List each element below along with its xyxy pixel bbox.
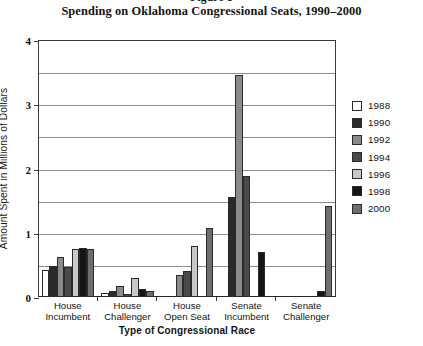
y-tick-mark xyxy=(34,170,39,171)
bar-1990-house-incumbent[interactable] xyxy=(49,266,57,297)
x-category-line: Challenger xyxy=(276,311,336,322)
bar-1998-senate-challenger[interactable] xyxy=(317,291,325,297)
bar-1998-senate-incumbent[interactable] xyxy=(258,252,266,297)
figure-title: Spending on Oklahoma Congressional Seats… xyxy=(0,4,423,19)
gridline xyxy=(39,170,335,171)
y-tick-label-2: 2 xyxy=(26,164,32,176)
bar-1992-house-open-seat[interactable] xyxy=(176,275,184,297)
figure-container: Figure 1 Spending on Oklahoma Congressio… xyxy=(0,0,423,346)
bar-1992-house-incumbent[interactable] xyxy=(57,257,65,297)
legend-item-1988[interactable]: 1988 xyxy=(352,100,390,111)
gridline xyxy=(39,234,335,235)
legend-swatch-1994 xyxy=(352,152,362,162)
legend-swatch-1990 xyxy=(352,118,362,128)
bar-1992-senate-incumbent[interactable] xyxy=(235,75,243,297)
legend-item-1992[interactable]: 1992 xyxy=(352,134,390,145)
bar-2000-house-open-seat[interactable] xyxy=(206,228,214,297)
legend-swatch-1998 xyxy=(352,186,362,196)
bar-1996-house-open-seat[interactable] xyxy=(191,246,199,297)
x-category-senate-incumbent: SenateIncumbent xyxy=(217,300,277,323)
y-tick-label-4: 4 xyxy=(26,35,32,47)
bar-1998-house-challenger[interactable] xyxy=(139,289,147,297)
legend-label-1996: 1996 xyxy=(368,169,390,180)
bar-1994-house-challenger[interactable] xyxy=(124,294,132,297)
bar-1996-house-incumbent[interactable] xyxy=(72,249,80,297)
y-tick-mark xyxy=(34,41,39,42)
legend-label-1992: 1992 xyxy=(368,134,390,145)
x-category-line: House xyxy=(173,300,201,311)
legend-label-1990: 1990 xyxy=(368,117,390,128)
x-category-line: Senate xyxy=(291,300,321,311)
bar-1998-house-incumbent[interactable] xyxy=(79,248,87,297)
bar-1990-senate-incumbent[interactable] xyxy=(228,197,236,297)
x-axis-title: Type of Congressional Race xyxy=(38,325,336,336)
gridline xyxy=(39,137,335,138)
gridline xyxy=(39,73,335,74)
legend-item-1996[interactable]: 1996 xyxy=(352,169,390,180)
bar-2000-house-challenger[interactable] xyxy=(146,291,154,297)
x-category-house-challenger: HouseChallenger xyxy=(98,300,158,323)
legend-label-1998: 1998 xyxy=(368,186,390,197)
legend-item-1998[interactable]: 1998 xyxy=(352,186,390,197)
gridline xyxy=(39,105,335,106)
bar-2000-senate-challenger[interactable] xyxy=(325,206,333,297)
y-tick-label-0: 0 xyxy=(26,292,32,304)
legend-label-1994: 1994 xyxy=(368,152,390,163)
x-category-line: Incumbent xyxy=(38,311,98,322)
bar-1996-house-challenger[interactable] xyxy=(131,278,139,297)
x-category-line: Incumbent xyxy=(217,311,277,322)
legend-label-1988: 1988 xyxy=(368,100,390,111)
legend-item-1994[interactable]: 1994 xyxy=(352,152,390,163)
bar-1994-house-open-seat[interactable] xyxy=(183,271,191,297)
y-tick-mark xyxy=(34,234,39,235)
x-category-house-open-seat: HouseOpen Seat xyxy=(157,300,217,323)
legend-swatch-1992 xyxy=(352,135,362,145)
x-category-senate-challenger: SenateChallenger xyxy=(276,300,336,323)
legend-swatch-1988 xyxy=(352,101,362,111)
y-tick-mark xyxy=(34,105,39,106)
bar-1988-house-challenger[interactable] xyxy=(101,293,109,297)
figure-label: Figure 1 xyxy=(0,0,423,3)
legend-swatch-2000 xyxy=(352,204,362,214)
y-tick-mark xyxy=(34,298,39,299)
x-category-line: House xyxy=(54,300,82,311)
bar-2000-house-incumbent[interactable] xyxy=(87,249,95,297)
bar-1988-house-incumbent[interactable] xyxy=(42,270,50,297)
y-axis-title-text: Amount Spent in Millions of Dollars xyxy=(0,88,10,249)
x-category-line: House xyxy=(114,300,142,311)
x-category-line: Senate xyxy=(231,300,261,311)
legend-label-2000: 2000 xyxy=(368,203,390,214)
x-category-line: Open Seat xyxy=(157,311,217,322)
y-tick-label-3: 3 xyxy=(26,99,32,111)
legend-swatch-1996 xyxy=(352,169,362,179)
x-category-house-incumbent: HouseIncumbent xyxy=(38,300,98,323)
x-category-line: Challenger xyxy=(98,311,158,322)
bar-1992-house-challenger[interactable] xyxy=(116,286,124,297)
x-axis-category-labels: HouseIncumbentHouseChallengerHouseOpen S… xyxy=(38,300,336,323)
bar-1990-house-challenger[interactable] xyxy=(109,291,117,297)
y-axis-title: Amount Spent in Millions of Dollars xyxy=(0,40,12,297)
legend-item-1990[interactable]: 1990 xyxy=(352,117,390,128)
legend: 1988199019921994199619982000 xyxy=(352,100,390,214)
bar-1994-senate-incumbent[interactable] xyxy=(243,176,251,297)
y-tick-label-1: 1 xyxy=(26,228,32,240)
bar-1994-house-incumbent[interactable] xyxy=(64,267,72,297)
legend-item-2000[interactable]: 2000 xyxy=(352,203,390,214)
gridline xyxy=(39,202,335,203)
